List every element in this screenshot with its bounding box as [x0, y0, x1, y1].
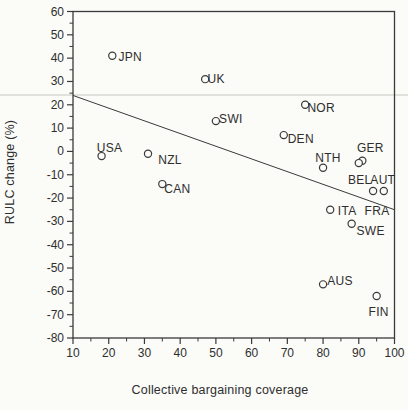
data-point-label-AUT: AUT: [370, 173, 395, 187]
y-tick-label--50: -50: [47, 261, 65, 275]
data-point-label-USA: USA: [97, 141, 123, 155]
data-point-label-FIN: FIN: [369, 305, 389, 319]
y-tick-label-10: 10: [51, 121, 65, 135]
y-tick-label-50: 50: [51, 28, 65, 42]
y-tick-label-60: 60: [51, 5, 65, 19]
data-point-AUT: [380, 187, 387, 194]
x-tick-label-90: 90: [352, 346, 366, 360]
data-point-label-NZL: NZL: [158, 153, 182, 167]
data-point-label-SWE: SWE: [357, 224, 385, 238]
data-point-label-ITA: ITA: [338, 204, 357, 218]
y-tick-label-20: 20: [51, 98, 65, 112]
y-tick-label--70: -70: [47, 308, 65, 322]
axis-ticks: [67, 12, 395, 345]
x-tick-label-60: 60: [245, 346, 259, 360]
x-tick-label-50: 50: [209, 346, 223, 360]
x-tick-label-10: 10: [66, 346, 80, 360]
data-point-label-FRA: FRA: [365, 204, 390, 218]
x-tick-label-80: 80: [316, 346, 330, 360]
y-tick-label--60: -60: [47, 284, 65, 298]
y-axis-title: RULC change (%): [3, 120, 17, 224]
data-point-label-DEN: DEN: [288, 132, 314, 146]
data-point-label-NOR: NOR: [307, 101, 335, 115]
data-point-DEN: [280, 132, 287, 139]
data-point-label-AUS: AUS: [327, 274, 353, 288]
x-tick-label-100: 100: [384, 346, 404, 360]
data-points: [98, 52, 387, 299]
data-point-FRA: [369, 187, 376, 194]
y-tick-label-40: 40: [51, 51, 65, 65]
y-tick-label-30: 30: [51, 74, 65, 88]
x-tick-label-70: 70: [281, 346, 295, 360]
data-point-label-SWI: SWI: [219, 112, 243, 126]
data-point-FIN: [373, 292, 380, 299]
data-point-AUS: [319, 281, 326, 288]
y-tick-label--20: -20: [47, 191, 65, 205]
x-tick-label-30: 30: [138, 346, 152, 360]
data-point-NZL: [144, 150, 151, 157]
data-point-labels: USAJPNNZLCANUKSWIDENNORNTHGERBELAUTFRAIT…: [97, 50, 396, 319]
data-point-ITA: [327, 206, 334, 213]
data-point-label-UK: UK: [208, 72, 225, 86]
data-point-label-GER: GER: [357, 141, 384, 155]
data-point-label-CAN: CAN: [164, 182, 190, 196]
y-tick-label-0: 0: [57, 144, 64, 158]
data-point-label-JPN: JPN: [119, 50, 143, 64]
data-point-label-NTH: NTH: [315, 151, 341, 165]
data-point-label-BEL: BEL: [348, 173, 372, 187]
y-tick-label--10: -10: [47, 168, 65, 182]
data-point-NTH: [319, 164, 326, 171]
data-point-JPN: [109, 52, 116, 59]
y-tick-label--80: -80: [47, 331, 65, 345]
data-point-SWE: [348, 220, 355, 227]
y-tick-label--30: -30: [47, 214, 65, 228]
data-point-BEL: [355, 159, 362, 166]
y-tick-label--40: -40: [47, 238, 65, 252]
scatter-plot-svg: 1020304050607080901006050403020100-10-20…: [0, 0, 408, 410]
x-axis-title: Collective bargaining coverage: [132, 383, 309, 397]
x-tick-label-20: 20: [102, 346, 116, 360]
x-tick-label-40: 40: [173, 346, 187, 360]
scatter-figure: 1020304050607080901006050403020100-10-20…: [0, 0, 408, 410]
